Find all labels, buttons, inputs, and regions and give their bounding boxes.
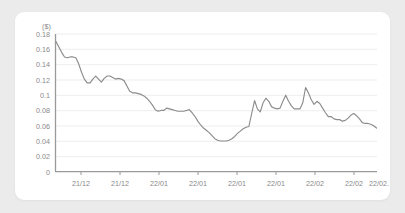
xtick-label: 22/01 — [189, 179, 207, 188]
x-axis-tick-labels: 21/12 21/12 22/01 22/01 22/01 22/01 22/0… — [72, 179, 389, 188]
ytick-label: 0.06 — [36, 122, 50, 131]
ytick-label: 0.1 — [40, 91, 50, 100]
xtick-label: 21/12 — [111, 179, 129, 188]
xtick-label: 22/01 — [150, 179, 168, 188]
gridlines — [55, 34, 377, 157]
xtick-label: 22/02 — [306, 179, 324, 188]
xtick-label: 22/02 — [345, 179, 363, 188]
ytick-label: 0.16 — [36, 45, 50, 54]
xtick-label: 22/02. — [369, 179, 389, 188]
chart-card: ($) 0.18 0.16 0.14 0.12 0.1 0.08 0.06 0.… — [15, 12, 390, 200]
ytick-label: 0.14 — [36, 60, 50, 69]
xtick-label: 21/12 — [72, 179, 90, 188]
xtick-label: 22/01 — [228, 179, 246, 188]
ytick-label: 0.12 — [36, 76, 50, 85]
ytick-label: 0.08 — [36, 106, 50, 115]
ytick-label: 0.02 — [36, 152, 50, 161]
screenshot-root: ($) 0.18 0.16 0.14 0.12 0.1 0.08 0.06 0.… — [0, 0, 405, 213]
ytick-label: 0 — [46, 168, 50, 177]
price-line-chart[interactable]: ($) 0.18 0.16 0.14 0.12 0.1 0.08 0.06 0.… — [15, 12, 390, 200]
xtick-label: 22/01 — [267, 179, 285, 188]
ytick-label: 0.04 — [36, 137, 50, 146]
y-axis-tick-labels: 0.18 0.16 0.14 0.12 0.1 0.08 0.06 0.04 0… — [36, 30, 50, 177]
ytick-label: 0.18 — [36, 30, 50, 39]
chart-svg: ($) 0.18 0.16 0.14 0.12 0.1 0.08 0.06 0.… — [15, 12, 390, 200]
